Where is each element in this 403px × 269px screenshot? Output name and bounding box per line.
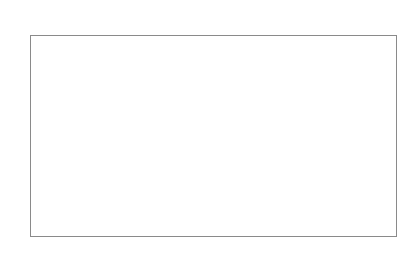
plot-area bbox=[30, 35, 397, 237]
series-lines bbox=[31, 36, 398, 238]
chart-figure bbox=[0, 0, 403, 269]
